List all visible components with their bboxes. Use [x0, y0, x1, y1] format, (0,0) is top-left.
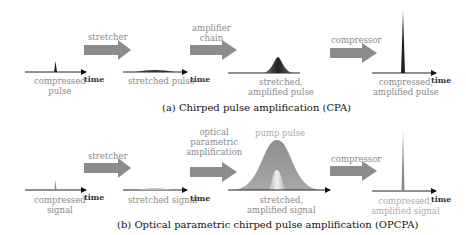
caption-b: (b) Optical parametric chirped pulse amp… [117, 219, 418, 230]
opa-arrow [190, 162, 237, 182]
time-label: time [84, 192, 104, 202]
caption-a: (a) Chirped pulse amplification (CPA) [162, 102, 351, 113]
stretcher-label: stretcher [88, 151, 128, 161]
compressor-label: compressor [331, 154, 381, 164]
time-label: time [431, 75, 451, 85]
amplifier-chain-label: amplifier chain [192, 23, 231, 43]
stretched-signal-label: stretched signal [128, 195, 197, 205]
compressed-pulse [54, 61, 57, 72]
amplified-signal-label: stretched, amplified signal [247, 195, 316, 215]
stretched-signal [138, 188, 172, 190]
compressed-amplified-pulse [401, 11, 405, 73]
time-label: time [190, 193, 210, 203]
compressed-pulse-label: compressed pulse [34, 76, 86, 96]
opa-label: optical parametric amplification [186, 127, 242, 157]
time-label: time [431, 194, 451, 204]
stretcher-arrow [84, 158, 131, 178]
stretcher-arrow [84, 40, 131, 60]
compressor-label: compressor [331, 35, 381, 45]
time-label: time [84, 74, 104, 84]
compressed-amplified-pulse-label: compressed, amplified pulse [373, 77, 439, 97]
compressed-signal [55, 180, 57, 190]
stretcher-label: stretcher [88, 32, 128, 42]
stretched-pulse-label: stretched pulse [128, 76, 195, 86]
compressor-arrow [330, 43, 377, 63]
pump-pulse-label: pump pulse [255, 128, 305, 138]
compressed-amplified-signal [402, 131, 405, 191]
time-label: time [190, 74, 210, 84]
compressor-arrow [330, 161, 377, 181]
amplified-pulse-label: stretched, amplified pulse [248, 77, 314, 97]
amplified-pulse [262, 57, 294, 73]
compressed-amplified-signal-label: compressed, amplified signal [371, 196, 440, 216]
compressed-signal-label: compressed signal [34, 195, 86, 215]
amplifier-arrow [190, 40, 237, 60]
stretched-pulse [135, 70, 175, 72]
